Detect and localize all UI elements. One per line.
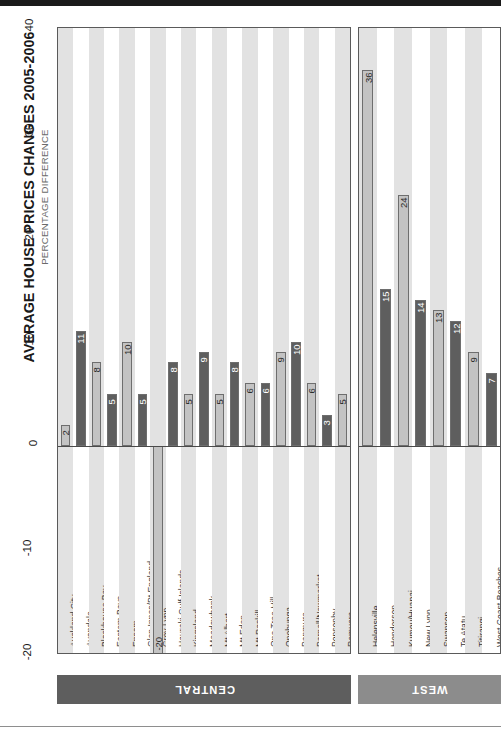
bar-value-label: 6 (259, 386, 271, 400)
bar-value-label: 36 (362, 73, 374, 87)
bar-value-label: 8 (90, 365, 102, 379)
category-band (212, 28, 227, 653)
zero-line (359, 446, 500, 447)
bar-value-label: 12 (450, 324, 462, 338)
bar-helensville[interactable] (362, 70, 373, 446)
bar-value-label: 3 (321, 418, 333, 432)
category-band (482, 28, 500, 653)
group-band-west: WEST (358, 675, 501, 704)
category-band (135, 28, 150, 653)
category-band (258, 28, 273, 653)
bar-value-label: 10 (121, 345, 133, 359)
bar-value-label: 5 (183, 397, 195, 411)
page-title: AVERAGE HOUSE PRICES CHANGES 2005-2006 (21, 0, 38, 407)
category-band (89, 28, 104, 653)
category-band (304, 28, 319, 653)
category-band (242, 28, 257, 653)
axis-tick-10: 10 (0, 333, 36, 345)
bar-value-label: 6 (244, 386, 256, 400)
axis-tick-neg20: -20 (0, 646, 36, 658)
bar-value-label: 9 (198, 355, 210, 369)
plot-panel-central: 2Auckland City11Avondale8Blockhouse Bay5… (57, 27, 351, 654)
bottom-rule (0, 726, 501, 727)
bar-henderson[interactable] (380, 289, 391, 446)
axis-tick-40: 40 (0, 19, 36, 31)
bar-value-label: 6 (306, 386, 318, 400)
bar-value-label: 13 (432, 313, 444, 327)
axis-tick-0: 0 (0, 437, 36, 449)
axis-tick-30: 30 (0, 124, 36, 136)
category-band (227, 28, 242, 653)
bar-value-label: 15 (379, 292, 391, 306)
category-band (335, 28, 350, 653)
bar-avondale[interactable] (76, 331, 86, 446)
category-band (319, 28, 334, 653)
category-band (273, 28, 288, 653)
category-band (289, 28, 304, 653)
bar-value-label: 10 (290, 345, 302, 359)
bar-kumeu-huapai[interactable] (398, 195, 409, 446)
bar-value-label: 2 (60, 428, 72, 442)
bar-value-label: 5 (213, 397, 225, 411)
axis-tick-neg10: -10 (0, 542, 36, 554)
group-label-central: CENTRAL (174, 684, 235, 696)
bar-value-label: 5 (336, 397, 348, 411)
category-band (196, 28, 211, 653)
group-band-central: CENTRAL (57, 675, 351, 704)
bar-value-label: 9 (468, 355, 480, 369)
plot-panel-west: 36Helensville15Henderson24Kumeu/Huapai14… (358, 27, 501, 654)
category-band (181, 28, 196, 653)
chart-subtitle: PERCENTAGE DIFFERENCE (38, 0, 51, 407)
bar-value-label: 8 (167, 365, 179, 379)
bar-value-label: 5 (137, 397, 149, 411)
bar-value-label: 8 (229, 365, 241, 379)
category-band (119, 28, 134, 653)
bar-value-label: 7 (485, 376, 497, 390)
category-band (465, 28, 483, 653)
bar-value-label: 9 (275, 355, 287, 369)
bar-new-lynn[interactable] (415, 300, 426, 446)
category-band (104, 28, 119, 653)
bar-value-label: 14 (415, 303, 427, 317)
bar-te-atatu[interactable] (450, 321, 461, 446)
top-white-strip (0, 6, 501, 8)
bar-swanson[interactable] (433, 310, 444, 446)
bar-value-label: 11 (75, 334, 87, 348)
category-band (58, 28, 73, 653)
zero-line (58, 446, 350, 447)
bar-value-label: 5 (106, 397, 118, 411)
bar-value-label: 24 (397, 198, 409, 212)
category-band (166, 28, 181, 653)
group-label-west: WEST (411, 684, 448, 696)
axis-tick-20: 20 (0, 228, 36, 240)
